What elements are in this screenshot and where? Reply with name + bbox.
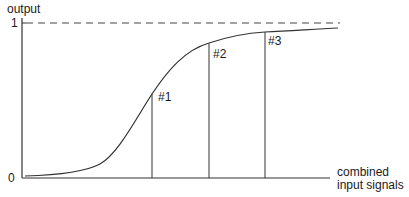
y-tick-label-0: 0	[8, 172, 15, 185]
marker-label-1: #1	[158, 91, 171, 104]
marker-label-2: #2	[213, 48, 226, 61]
y-axis-title: output	[7, 3, 40, 16]
sigmoid-curve	[25, 28, 338, 176]
marker-label-3: #3	[268, 35, 281, 48]
y-tick-label-1: 1	[11, 17, 18, 30]
x-axis-title-line2: input signals	[337, 179, 404, 192]
